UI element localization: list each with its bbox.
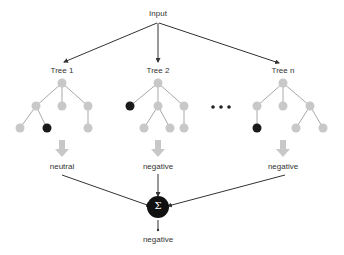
tree-2 [126,79,189,133]
final-output: negative [143,235,173,244]
tree-n-output: negative [268,162,298,171]
input-edges [64,23,279,63]
sigma-icon: Σ [154,200,161,211]
tree-2-label: Tree 2 [147,66,170,75]
tree-1-label: Tree 1 [51,66,74,75]
random-forest-diagram [0,0,344,255]
tree-1-output: neutral [50,162,74,171]
block-arrows [55,140,290,157]
tree-1 [16,79,93,133]
tree-2-output: negative [143,162,173,171]
input-label: Input [149,9,167,18]
aggregation-edges [62,174,285,229]
tree-n-label: Tree n [272,66,295,75]
tree-n [253,79,328,133]
ellipsis-dots [211,105,231,109]
